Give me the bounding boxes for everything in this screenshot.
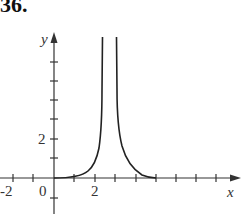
curve [54, 37, 156, 178]
problem-number: 36. [0, 0, 28, 17]
x-tick-label: 0 [39, 183, 47, 199]
y-axis-arrow-icon [51, 32, 58, 43]
y-tick-label: 2 [38, 131, 46, 147]
curve-right-branch [117, 37, 157, 178]
chart: 36. -2 0 2 x [0, 0, 241, 214]
x-tick-label: 2 [91, 183, 99, 199]
y-axis-label: y [39, 31, 48, 47]
x-tick-label: -2 [0, 183, 13, 199]
curve-left-branch [54, 37, 103, 178]
x-axis-arrow-icon [230, 175, 241, 182]
x-axis-label: x [226, 184, 234, 200]
x-axis: -2 0 2 x [0, 174, 241, 200]
